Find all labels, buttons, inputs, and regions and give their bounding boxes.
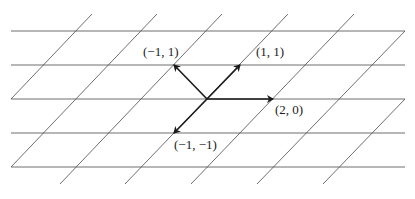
vector-1-1-arrow xyxy=(207,65,240,99)
grid-diagonal-line xyxy=(323,99,405,184)
grid-diagonal-line xyxy=(11,14,92,99)
vector-2-0-label: (2, 0) xyxy=(275,102,303,117)
vector-neg1-1-arrow xyxy=(174,65,207,99)
grid-diagonal-line xyxy=(11,14,157,167)
lattice-diagram: (2, 0)(1, 1)(−1, 1)(−1, −1) xyxy=(0,0,415,199)
vector-labels: (2, 0)(1, 1)(−1, 1)(−1, −1) xyxy=(143,44,303,152)
vector-neg1-1-label: (−1, 1) xyxy=(143,44,179,59)
vector-neg1-neg1-arrow xyxy=(174,99,207,133)
vector-neg1-neg1-label: (−1, −1) xyxy=(174,137,217,152)
vector-1-1-label: (1, 1) xyxy=(256,44,284,59)
